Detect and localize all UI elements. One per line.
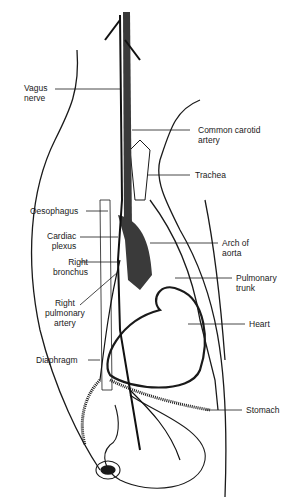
label-trachea: Trachea [195,170,226,180]
vagus-nerve-diagram [0,0,295,497]
trachea [130,140,150,200]
diaphragm-left [82,380,100,445]
label-vagus-nerve: Vagus nerve [24,83,47,103]
label-right-bronchus: Right bronchus [53,257,88,277]
label-pulmonary-trunk: Pulmonary trunk [236,273,277,293]
diaphragm-right [150,200,225,410]
label-cardiac-plexus: Cardiac plexus [47,231,76,251]
label-right-pulmonary-artery: Right pulmonary artery [45,298,85,328]
label-stomach: Stomach [246,405,280,415]
aorta-arch [118,215,152,290]
label-oesophagus: Oesophagus [30,206,78,216]
label-diaphragm: Diaphragm [36,355,78,365]
label-arch-of-aorta: Arch of aorta [222,238,249,258]
label-heart: Heart [249,319,270,329]
label-common-carotid-artery: Common carotid artery [198,125,260,145]
stomach-outline [105,395,205,488]
diaphragm-band [110,380,210,410]
